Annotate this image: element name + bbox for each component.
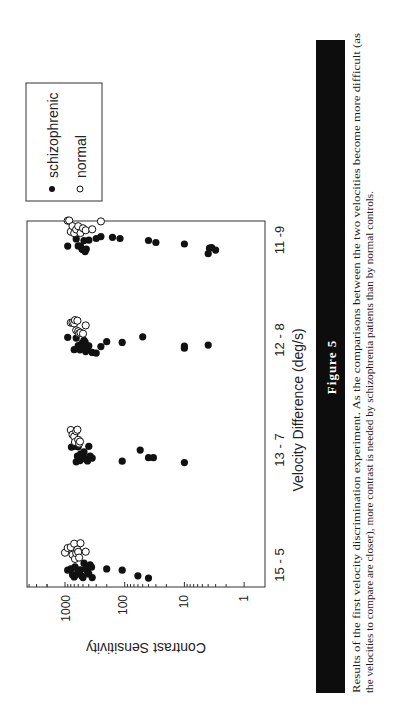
legend-label-normal: normal bbox=[73, 135, 89, 178]
schizophrenic-point bbox=[89, 574, 96, 581]
schizophrenic-point bbox=[205, 342, 212, 349]
schizophrenic-point bbox=[181, 459, 188, 466]
schizophrenic-point bbox=[83, 246, 90, 253]
schizophrenic-point bbox=[64, 243, 71, 250]
schizophrenic-point bbox=[139, 333, 146, 340]
y-axis-tick-labels: 1000 100 10 1 bbox=[59, 595, 251, 622]
schizophrenic-point bbox=[119, 339, 126, 346]
schizophrenic-point bbox=[85, 342, 92, 349]
schizophrenic-point bbox=[103, 338, 110, 345]
schizophrenic-point bbox=[109, 234, 116, 241]
legend-filled-circle-icon bbox=[49, 186, 55, 192]
normal-point bbox=[82, 227, 89, 234]
x-axis-tick-labels: 15 - 5 13 - 7 12 - 8 11 -9 bbox=[272, 226, 287, 582]
schizophrenic-point bbox=[88, 564, 95, 571]
schizophrenic-point bbox=[97, 343, 104, 350]
y-tick-10: 10 bbox=[177, 595, 191, 609]
normal-point bbox=[82, 548, 89, 555]
legend: schizophrenic normal bbox=[26, 83, 102, 201]
normal-point bbox=[79, 330, 86, 337]
y-tick-1000: 1000 bbox=[59, 595, 73, 622]
schizophrenic-point bbox=[152, 239, 159, 246]
rotated-figure-page: schizophrenic normal 1000 100 10 1 Contr… bbox=[0, 0, 393, 723]
normal-point bbox=[97, 218, 104, 225]
x-axis-title: Velocity Difference (deg/s) bbox=[290, 328, 306, 491]
schizophrenic-point bbox=[69, 571, 76, 578]
x-tick-13-7: 13 - 7 bbox=[272, 433, 287, 466]
schizophrenic-point bbox=[78, 573, 85, 580]
schizophrenic-point bbox=[93, 350, 100, 357]
schizophrenic-point bbox=[64, 334, 71, 341]
schizophrenic-point bbox=[85, 443, 92, 450]
schizophrenic-point bbox=[212, 247, 219, 254]
normal-point bbox=[76, 438, 83, 445]
schizophrenic-point bbox=[137, 447, 144, 454]
schizophrenic-point bbox=[116, 235, 123, 242]
caption-line-1: Results of the first velocity discrimina… bbox=[350, 33, 363, 693]
plot-frame bbox=[27, 221, 265, 587]
schizophrenic-point bbox=[119, 458, 126, 465]
schizophrenic-point bbox=[145, 237, 152, 244]
y-tick-1: 1 bbox=[237, 595, 251, 602]
normal-point bbox=[74, 317, 81, 324]
caption-line-2: the velocities to compare are closer), m… bbox=[363, 191, 376, 693]
normal-point bbox=[89, 226, 96, 233]
figure-label: Figure 5 bbox=[324, 340, 339, 394]
y-axis-title: Contrast Sensitivity bbox=[86, 640, 206, 656]
schizophrenic-point bbox=[103, 565, 110, 572]
schizophrenic-point bbox=[181, 240, 188, 247]
scatter-points bbox=[61, 217, 219, 582]
schizophrenic-point bbox=[134, 572, 141, 579]
x-tick-11-9: 11 -9 bbox=[272, 226, 287, 255]
x-tick-15-5: 15 - 5 bbox=[272, 548, 287, 581]
schizophrenic-point bbox=[181, 343, 188, 350]
schizophrenic-point bbox=[71, 563, 78, 570]
y-tick-100: 100 bbox=[116, 595, 130, 615]
normal-point bbox=[82, 322, 89, 329]
normal-point bbox=[74, 426, 81, 433]
schizophrenic-point bbox=[89, 455, 96, 462]
schizophrenic-point bbox=[97, 233, 104, 240]
x-tick-12-8: 12 - 8 bbox=[272, 323, 287, 356]
normal-point bbox=[77, 540, 84, 547]
y-axis-ticks bbox=[29, 582, 244, 587]
normal-point bbox=[76, 554, 83, 561]
legend-open-circle-icon bbox=[77, 186, 83, 192]
schizophrenic-point bbox=[150, 454, 157, 461]
schizophrenic-point bbox=[145, 575, 152, 582]
legend-label-schizophrenic: schizophrenic bbox=[45, 92, 61, 178]
schizophrenic-point bbox=[77, 451, 84, 458]
schizophrenic-point bbox=[85, 237, 92, 244]
schizophrenic-point bbox=[119, 567, 126, 574]
